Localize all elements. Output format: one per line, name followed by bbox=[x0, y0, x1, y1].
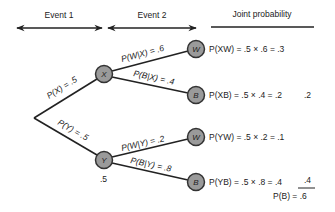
event2-header: Event 2 bbox=[138, 10, 167, 20]
y-node-note: .5 bbox=[100, 174, 107, 184]
label-p-b-given-x: P(B|X) = .4 bbox=[133, 68, 176, 86]
node-yw: W bbox=[188, 129, 205, 146]
sum-xb-side: .2 bbox=[304, 90, 311, 100]
joint-xb: P(XB) = .5 × .4 = .2 bbox=[209, 90, 282, 100]
node-xb: B bbox=[188, 87, 205, 104]
event1-header: Event 1 bbox=[45, 10, 74, 20]
joint-xw: P(XW) = .5 × .6 = .3 bbox=[209, 44, 285, 54]
joint-yb: P(YB) = .5 × .8 = .4 bbox=[209, 177, 282, 187]
svg-text:B: B bbox=[193, 91, 199, 100]
svg-text:B: B bbox=[193, 178, 199, 187]
node-yb: B bbox=[188, 174, 205, 191]
label-p-x: P(X) = .5 bbox=[45, 74, 79, 101]
sum-yb-side: .4 bbox=[304, 175, 311, 185]
joint-probability-header: Joint probability bbox=[232, 9, 292, 19]
svg-text:X: X bbox=[100, 70, 107, 79]
label-p-y: P(Y) = .5 bbox=[56, 117, 90, 143]
joint-yw: P(YW) = .5 × .2 = .1 bbox=[209, 132, 285, 142]
probability-tree-diagram: Event 1 Event 2 Joint probability P(X) =… bbox=[0, 0, 335, 212]
svg-text:Y: Y bbox=[101, 156, 107, 165]
node-xw: W bbox=[188, 41, 205, 58]
total-p-b: P(B) = .6 bbox=[273, 191, 307, 201]
node-y: Y bbox=[96, 152, 113, 169]
node-x: X bbox=[96, 66, 113, 83]
label-p-w-given-x: P(W|X) = .6 bbox=[120, 43, 165, 64]
label-p-b-given-y: P(B|Y) = .8 bbox=[130, 155, 173, 173]
